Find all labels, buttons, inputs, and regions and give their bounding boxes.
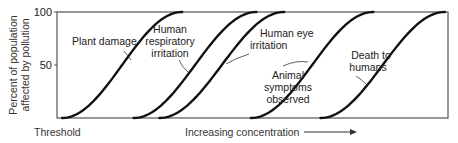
y-tick-label-100: 100 (34, 6, 52, 18)
svg-text:Death to: Death to (351, 49, 391, 61)
svg-text:Plant damage: Plant damage (72, 35, 137, 47)
label-death-to-humans: Death to humans (349, 49, 391, 84)
y-axis-title-line2: affected by pollution (19, 18, 31, 111)
svg-text:respiratory: respiratory (145, 35, 195, 47)
label-animal-symptoms: Animal symptoms observed (264, 62, 312, 106)
label-human-respiratory: Human respiratory irritation (145, 23, 195, 72)
svg-text:irritation: irritation (250, 39, 288, 51)
x-start-label: Threshold (34, 126, 81, 138)
y-tick-label-50: 50 (40, 59, 52, 71)
svg-text:Human eye: Human eye (260, 27, 314, 39)
chart: 100 50 Percent of population affected by… (0, 0, 458, 143)
x-axis-arrow (304, 129, 357, 135)
svg-text:symptoms: symptoms (264, 81, 312, 93)
x-axis-title: Increasing concentration (185, 126, 300, 138)
svg-text:Animal: Animal (272, 69, 304, 81)
svg-text:observed: observed (266, 93, 309, 105)
svg-text:Human: Human (153, 23, 187, 35)
label-human-eye: Human eye irritation (226, 27, 314, 64)
svg-text:humans: humans (349, 61, 386, 73)
svg-text:irritation: irritation (151, 47, 189, 59)
y-axis-title-line1: Percent of population (7, 15, 19, 114)
